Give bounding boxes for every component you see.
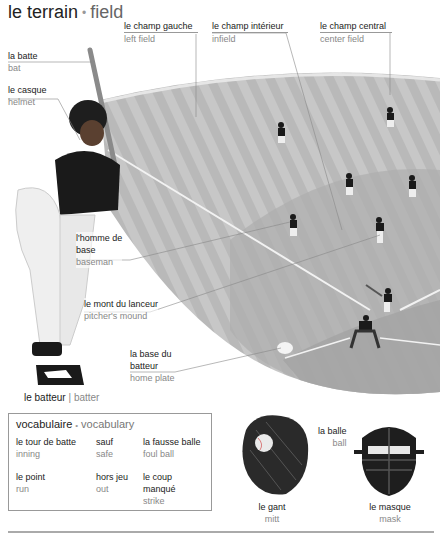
title-separator: • <box>82 6 86 20</box>
fielder-left <box>278 122 285 143</box>
mask-icon <box>352 418 426 498</box>
vocab-item: le coup manqué strike <box>143 471 176 507</box>
label-batter: le batteur | batter <box>24 392 99 403</box>
title-french: le terrain <box>8 2 78 22</box>
label-pitchers-mound: le mont du lanceur pitcher's mound <box>84 298 158 322</box>
title-english: field <box>90 2 123 22</box>
vocab-item: le point run <box>16 471 45 495</box>
vocab-item: hors jeu out <box>96 471 128 495</box>
label-baseman: l'homme de base baseman <box>76 232 122 268</box>
home-plate-icon <box>277 342 293 354</box>
label-home-plate: la base du batteur home plate <box>130 348 175 384</box>
label-helmet: le casque helmet <box>8 84 47 108</box>
page-title: le terrain•field <box>8 2 123 23</box>
label-infield: le champ intérieur infield <box>212 20 288 45</box>
vocabulary-box: vocabulaire•vocabulary le tour de batte … <box>8 413 212 511</box>
label-center-field: le champ central center field <box>320 20 392 45</box>
ball-icon <box>255 434 273 452</box>
vocabulary-title: vocabulaire•vocabulary <box>16 418 134 430</box>
label-mask: le masque mask <box>364 501 416 525</box>
baseball-field-illustration <box>0 0 440 420</box>
vocab-item: le tour de batte inning <box>16 436 76 460</box>
vocab-item: sauf safe <box>96 436 113 460</box>
mitt-icon <box>236 410 316 500</box>
bottom-divider <box>8 531 434 533</box>
fielder-center <box>387 107 394 127</box>
vocab-item: la fausse balle foul ball <box>143 436 201 460</box>
label-mitt: le gant mitt <box>252 501 292 525</box>
label-ball: la balle ball <box>318 425 347 449</box>
label-left-field: le champ gauche left field <box>124 20 198 45</box>
label-bat: la batte bat <box>8 50 38 74</box>
